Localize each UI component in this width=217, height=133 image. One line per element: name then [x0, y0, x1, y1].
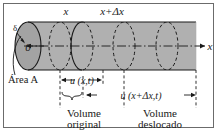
label-u-x-plus-dx-t: u (x+Δx,t)	[121, 90, 163, 102]
label-volume-original-line2: original	[67, 118, 101, 130]
cylinder-diagram-svg: x x+Δx x 0 δ Área A u (x,t) u (x+Δx,t) V…	[0, 0, 217, 133]
label-delta: δ	[13, 23, 17, 33]
label-volume-deslocado-line2: deslocado	[138, 118, 182, 130]
label-x-top: x	[63, 5, 69, 17]
physics-figure-container: x x+Δx x 0 δ Área A u (x,t) u (x+Δx,t) V…	[0, 0, 217, 133]
label-origin-zero: 0	[25, 41, 31, 53]
label-area-a: Área A	[8, 74, 38, 85]
label-u-x-t: u (x,t)	[70, 75, 95, 87]
label-axis-x: x	[207, 40, 213, 52]
label-x-plus-delta-x-top: x+Δx	[99, 5, 124, 17]
